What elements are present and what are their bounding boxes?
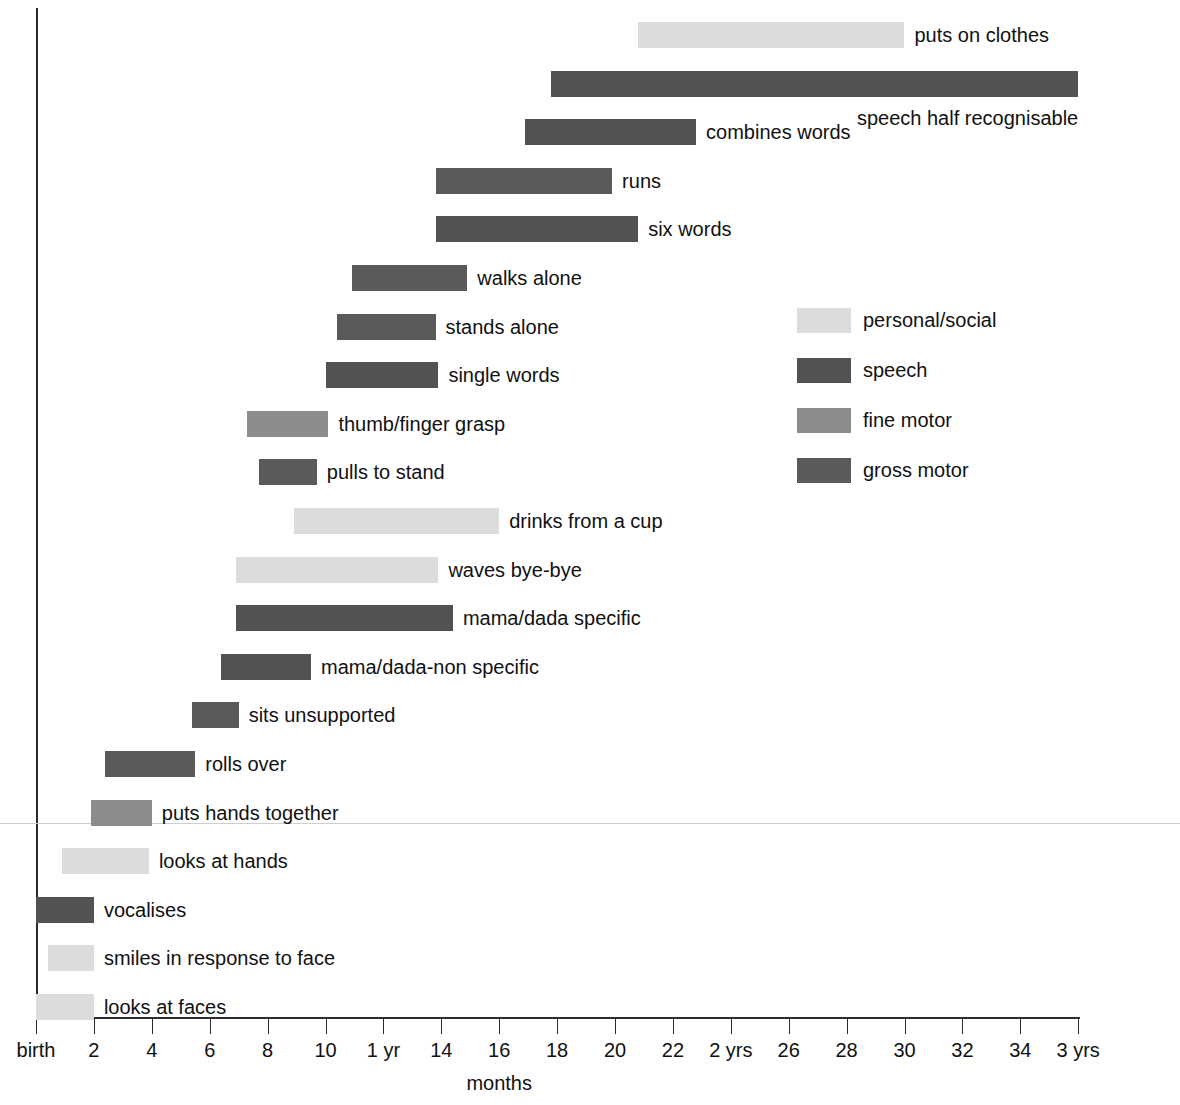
plot-area: birth2468101 yr14161820222 yrs2628303234…: [0, 0, 1180, 1105]
milestone-label: combines words: [706, 119, 851, 145]
legend-swatch: [797, 408, 851, 433]
milestone-bar[interactable]: [247, 411, 328, 437]
milestone-bar[interactable]: [436, 216, 639, 242]
milestone-bar[interactable]: [326, 362, 439, 388]
x-axis-tick-label: 18: [546, 1039, 568, 1061]
milestone-label: looks at faces: [104, 994, 226, 1020]
x-axis-tick: [905, 1019, 906, 1034]
milestone-label: speech half recognisable: [857, 105, 1078, 131]
x-axis-tick: [268, 1019, 269, 1034]
x-axis-tick: [152, 1019, 153, 1034]
developmental-milestones-chart: birth2468101 yr14161820222 yrs2628303234…: [0, 0, 1180, 1105]
x-axis-tick-label: 8: [262, 1039, 273, 1061]
milestone-label: runs: [622, 168, 661, 194]
legend-swatch: [797, 358, 851, 383]
x-axis-tick: [383, 1019, 384, 1034]
milestone-bar[interactable]: [551, 71, 1078, 97]
x-axis-tick-label: 2: [88, 1039, 99, 1061]
milestone-label: looks at hands: [159, 848, 288, 874]
x-axis-tick-label: 14: [430, 1039, 452, 1061]
x-axis-tick-label: 22: [662, 1039, 684, 1061]
milestone-label: single words: [448, 362, 559, 388]
milestone-bar[interactable]: [337, 314, 435, 340]
x-axis-tick-label: 30: [893, 1039, 915, 1061]
x-axis-tick: [1020, 1019, 1021, 1034]
x-axis-tick: [673, 1019, 674, 1034]
legend-label: gross motor: [863, 458, 969, 483]
milestone-label: pulls to stand: [327, 459, 445, 485]
milestone-bar[interactable]: [36, 897, 94, 923]
x-axis-tick: [731, 1019, 732, 1034]
legend-label: fine motor: [863, 408, 952, 433]
milestone-label: vocalises: [104, 897, 186, 923]
milestone-label: rolls over: [205, 751, 286, 777]
x-axis-tick: [94, 1019, 95, 1034]
x-axis-tick: [1078, 1019, 1079, 1034]
milestone-bar[interactable]: [236, 557, 439, 583]
legend: personal/socialspeechfine motorgross mot…: [797, 308, 1057, 508]
legend-item[interactable]: speech: [797, 358, 1057, 408]
x-axis-tick-label: 2 yrs: [709, 1039, 752, 1061]
x-axis-tick: [441, 1019, 442, 1034]
x-axis-tick-label: 4: [146, 1039, 157, 1061]
legend-item[interactable]: fine motor: [797, 408, 1057, 458]
milestone-bar[interactable]: [221, 654, 311, 680]
x-axis-tick-label: 32: [951, 1039, 973, 1061]
milestone-label: thumb/finger grasp: [338, 411, 505, 437]
milestone-label: mama/dada-non specific: [321, 654, 539, 680]
milestone-label: smiles in response to face: [104, 945, 335, 971]
milestone-label: puts on clothes: [915, 22, 1050, 48]
legend-item[interactable]: gross motor: [797, 458, 1057, 508]
milestone-label: walks alone: [477, 265, 582, 291]
legend-swatch: [797, 308, 851, 333]
legend-label: speech: [863, 358, 928, 383]
milestone-bar[interactable]: [638, 22, 904, 48]
x-axis-tick-label: 16: [488, 1039, 510, 1061]
milestone-bar[interactable]: [48, 945, 94, 971]
legend-swatch: [797, 458, 851, 483]
milestone-bar[interactable]: [259, 459, 317, 485]
milestone-bar[interactable]: [525, 119, 696, 145]
legend-item[interactable]: personal/social: [797, 308, 1057, 358]
x-axis-tick-label: 6: [204, 1039, 215, 1061]
milestone-bar[interactable]: [352, 265, 468, 291]
x-axis-tick: [557, 1019, 558, 1034]
milestone-label: sits unsupported: [249, 702, 396, 728]
milestone-bar[interactable]: [294, 508, 500, 534]
milestone-bar[interactable]: [236, 605, 453, 631]
y-axis-line: [36, 8, 38, 1018]
milestone-bar[interactable]: [436, 168, 613, 194]
x-axis-tick: [210, 1019, 211, 1034]
x-axis-tick: [36, 1019, 37, 1034]
milestone-bar[interactable]: [105, 751, 195, 777]
milestone-label: stands alone: [446, 314, 559, 340]
x-axis-tick: [326, 1019, 327, 1034]
legend-label: personal/social: [863, 308, 996, 333]
milestone-bar[interactable]: [62, 848, 149, 874]
milestone-label: waves bye-bye: [448, 557, 581, 583]
x-axis-tick-label: 1 yr: [367, 1039, 400, 1061]
milestone-bar[interactable]: [36, 994, 94, 1020]
x-axis-tick-label: 26: [778, 1039, 800, 1061]
milestone-label: six words: [648, 216, 731, 242]
x-axis-tick: [962, 1019, 963, 1034]
x-axis-tick-label: 10: [314, 1039, 336, 1061]
x-axis-tick: [847, 1019, 848, 1034]
milestone-label: puts hands together: [162, 800, 339, 826]
milestone-bar[interactable]: [91, 800, 152, 826]
milestone-label: mama/dada specific: [463, 605, 641, 631]
x-axis-tick: [615, 1019, 616, 1034]
x-axis-title: months: [466, 1072, 532, 1094]
x-axis-tick-label: birth: [17, 1039, 56, 1061]
x-axis-tick: [789, 1019, 790, 1034]
x-axis-tick-label: 28: [835, 1039, 857, 1061]
milestone-label: drinks from a cup: [509, 508, 662, 534]
x-axis-tick-label: 3 yrs: [1057, 1039, 1100, 1061]
milestone-bar[interactable]: [192, 702, 238, 728]
x-axis-tick-label: 34: [1009, 1039, 1031, 1061]
x-axis-tick: [499, 1019, 500, 1034]
x-axis-tick-label: 20: [604, 1039, 626, 1061]
